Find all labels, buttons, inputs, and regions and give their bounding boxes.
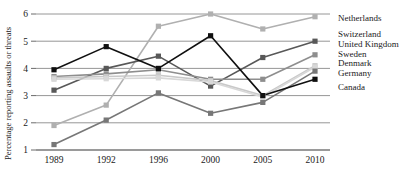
data-point-marker <box>156 54 161 59</box>
y-tick-label: 6 <box>23 9 28 19</box>
data-point-marker <box>156 24 161 29</box>
data-point-marker <box>156 66 161 71</box>
data-point-marker <box>156 75 161 80</box>
data-point-marker <box>260 55 265 60</box>
data-point-marker <box>104 103 109 108</box>
series-line-germany <box>54 71 315 144</box>
data-point-marker <box>156 90 161 95</box>
legend-label-canada: Canada <box>338 82 365 92</box>
legend-label-netherlands: Netherlands <box>338 13 382 23</box>
x-axis-tick-labels: 198919921996200020052010 <box>45 155 325 165</box>
data-point-marker <box>260 100 265 105</box>
data-point-marker <box>51 77 56 82</box>
data-point-marker <box>312 69 317 74</box>
data-point-marker <box>208 11 213 16</box>
data-point-marker <box>51 88 56 93</box>
legend-label-switzerland: Switzerland <box>338 29 381 39</box>
data-point-marker <box>51 67 56 72</box>
y-axis-title: Percentage reporting assaults or threats <box>3 27 13 160</box>
data-point-marker <box>104 44 109 49</box>
data-point-marker <box>51 123 56 128</box>
legend-label-sweden: Sweden <box>338 49 367 59</box>
x-tick-label: 2005 <box>253 155 272 165</box>
y-tick-label: 1 <box>23 145 28 155</box>
data-point-marker <box>104 66 109 71</box>
axis-tickmarks <box>31 14 36 150</box>
data-point-marker <box>208 79 213 84</box>
data-point-marker <box>260 26 265 31</box>
x-tick-label: 1996 <box>149 155 168 165</box>
data-point-marker <box>208 33 213 38</box>
data-point-marker <box>312 39 317 44</box>
legend-label-united-kingdom: United Kingdom <box>338 39 399 49</box>
legend-label-germany: Germany <box>338 68 372 78</box>
data-point-marker <box>104 76 109 81</box>
y-axis-tick-labels: 123456 <box>23 9 28 155</box>
data-point-marker <box>312 52 317 57</box>
y-tick-label: 3 <box>23 91 28 101</box>
data-point-marker <box>51 142 56 147</box>
series-line-canada <box>54 36 315 96</box>
data-point-marker <box>312 77 317 82</box>
x-tick-label: 2000 <box>201 155 220 165</box>
y-tick-label: 5 <box>23 37 28 47</box>
data-point-marker <box>104 117 109 122</box>
series-line-united-kingdom <box>54 55 315 79</box>
legend: NetherlandsSwitzerlandUnited KingdomSwed… <box>338 13 399 93</box>
line-chart: 123456 198919921996200020052010 Netherla… <box>0 0 414 180</box>
x-tick-label: 2010 <box>306 155 325 165</box>
series-line-switzerland <box>54 41 315 90</box>
data-point-marker <box>208 111 213 116</box>
x-tick-label: 1992 <box>97 155 116 165</box>
y-tick-label: 4 <box>23 64 28 74</box>
series-lines <box>54 14 315 145</box>
x-tick-label: 1989 <box>45 155 64 165</box>
data-point-marker <box>260 93 265 98</box>
data-point-marker <box>312 14 317 19</box>
y-tick-label: 2 <box>23 118 28 128</box>
series-line-netherlands <box>54 14 315 126</box>
chart-canvas: 123456 198919921996200020052010 Netherla… <box>0 0 414 180</box>
legend-label-denmark: Denmark <box>338 58 372 68</box>
data-point-marker <box>260 77 265 82</box>
